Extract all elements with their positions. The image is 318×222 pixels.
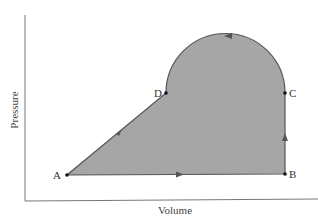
point-label-c: C <box>289 88 296 99</box>
point-label-a: A <box>53 170 61 181</box>
x-axis-label: Volume <box>158 205 192 216</box>
cycle-region <box>67 34 285 176</box>
point-d <box>164 91 168 95</box>
y-axis-label: Pressure <box>8 80 20 140</box>
pv-cycle-diagram <box>0 0 318 222</box>
point-c <box>283 91 287 95</box>
point-a <box>65 173 69 177</box>
point-label-b: B <box>289 169 296 180</box>
point-label-d: D <box>154 88 162 99</box>
x-axis <box>25 199 318 201</box>
point-b <box>283 172 287 176</box>
